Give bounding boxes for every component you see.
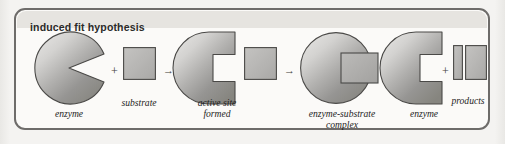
operator-plus-1: + — [111, 65, 118, 77]
diagram-stage: + → → — [16, 10, 492, 132]
operator-arrow-1: → — [163, 65, 174, 76]
label-enzyme-2: enzyme — [391, 109, 457, 120]
operator-plus-2: + — [442, 65, 449, 77]
figure-container: induced fit hypothesis — [0, 0, 505, 144]
operator-arrow-2: → — [284, 65, 295, 76]
product-bar-narrow-shape — [453, 45, 463, 80]
diagram-frame: induced fit hypothesis — [14, 8, 490, 130]
enzyme-square-notch-shape-1 — [180, 32, 252, 104]
label-enzyme-1: enzyme — [29, 109, 109, 120]
product-bar-wide-shape — [465, 45, 487, 80]
label-enzyme-substrate-complex: enzyme-substrate complex — [283, 109, 401, 130]
enzyme-wedge-notch-shape — [33, 32, 105, 104]
enzyme-substrate-complex-shape — [300, 32, 382, 104]
label-substrate: substrate — [99, 98, 179, 109]
substrate-square-shape-2 — [244, 47, 277, 80]
label-active-site-formed: active site formed — [172, 98, 262, 119]
label-products: products — [437, 96, 499, 107]
substrate-square-shape — [123, 47, 156, 80]
